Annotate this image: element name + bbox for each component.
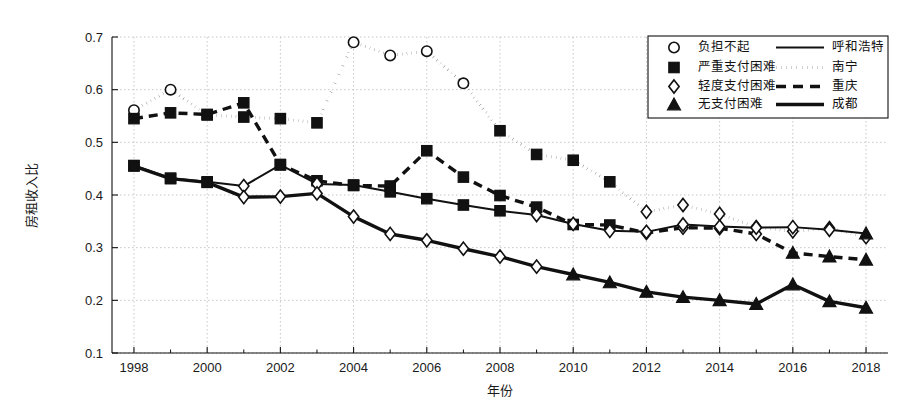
- data-point-marker-square: [495, 206, 505, 216]
- data-point-marker-diamond: [239, 191, 249, 204]
- legend-marker-label-1: 严重支付困难: [698, 59, 776, 74]
- data-point-marker-circle: [422, 46, 432, 56]
- data-point-marker-diamond: [312, 187, 322, 200]
- data-point-marker-square: [605, 177, 615, 187]
- x-tick-label: 2012: [632, 360, 661, 375]
- legend-marker-label-3: 无支付困难: [698, 97, 763, 111]
- data-point-marker-diamond: [275, 190, 285, 203]
- data-point-marker-square: [129, 113, 139, 123]
- legend-marker-square: [669, 62, 679, 72]
- y-tick-label: 0.3: [85, 240, 103, 255]
- data-point-marker-triangle: [860, 253, 873, 265]
- data-point-marker-diamond: [458, 242, 468, 255]
- x-tick-label: 2006: [412, 360, 441, 375]
- x-tick-label: 2004: [339, 360, 368, 375]
- legend-line-label-1: 南宁: [832, 59, 858, 74]
- data-point-marker-diamond: [348, 210, 358, 223]
- x-tick-label: 2014: [705, 360, 734, 375]
- data-point-marker-diamond: [422, 234, 432, 247]
- y-tick-label: 0.1: [85, 346, 103, 361]
- data-point-marker-square: [165, 108, 175, 118]
- data-point-marker-square: [202, 177, 212, 187]
- data-point-marker-square: [495, 126, 505, 136]
- data-point-marker-square: [275, 113, 285, 123]
- data-point-marker-triangle: [786, 278, 799, 290]
- data-point-marker-diamond: [678, 198, 688, 211]
- x-tick-label: 2008: [486, 360, 515, 375]
- data-point-marker-square: [129, 161, 139, 171]
- x-tick-label: 1998: [120, 360, 149, 375]
- legend-marker-label-0: 负担不起: [698, 40, 750, 54]
- data-point-marker-square: [531, 149, 541, 159]
- data-point-marker-circle: [348, 37, 358, 47]
- y-tick-label: 0.2: [85, 293, 103, 308]
- x-tick-label: 2016: [778, 360, 807, 375]
- data-point-marker-square: [568, 155, 578, 165]
- data-point-marker-circle: [458, 78, 468, 88]
- x-tick-label: 2010: [559, 360, 588, 375]
- x-axis-title: 年份: [487, 383, 513, 398]
- data-point-marker-square: [275, 160, 285, 170]
- y-tick-label: 0.6: [85, 82, 103, 97]
- data-point-marker-diamond: [495, 250, 505, 263]
- legend-line-label-2: 重庆: [832, 78, 858, 93]
- data-point-marker-square: [458, 200, 468, 210]
- data-point-marker-diamond: [641, 205, 651, 218]
- y-tick-label: 0.7: [85, 30, 103, 45]
- data-point-marker-circle: [385, 50, 395, 60]
- legend-marker-circle: [669, 42, 679, 52]
- data-point-marker-square: [239, 112, 249, 122]
- y-tick-label: 0.5: [85, 135, 103, 150]
- data-point-marker-square: [385, 187, 395, 197]
- data-point-marker-diamond: [641, 225, 651, 238]
- data-point-marker-square: [202, 109, 212, 119]
- data-point-marker-diamond: [531, 260, 541, 273]
- data-point-marker-circle: [165, 84, 175, 94]
- data-point-marker-square: [422, 193, 432, 203]
- data-point-marker-diamond: [385, 227, 395, 240]
- data-point-marker-diamond: [714, 207, 724, 220]
- legend-line-label-3: 成都: [832, 97, 858, 111]
- data-point-marker-square: [239, 98, 249, 108]
- data-point-marker-square: [348, 180, 358, 190]
- chart-figure: 0.10.20.30.40.50.60.71998200020022004200…: [0, 0, 905, 414]
- x-tick-label: 2018: [852, 360, 881, 375]
- rent-income-ratio-line-chart: 0.10.20.30.40.50.60.71998200020022004200…: [0, 0, 905, 414]
- legend-marker-label-2: 轻度支付困难: [698, 78, 776, 93]
- y-tick-label: 0.4: [85, 188, 103, 203]
- data-point-marker-square: [312, 118, 322, 128]
- data-point-marker-square: [495, 190, 505, 200]
- x-tick-label: 2002: [266, 360, 295, 375]
- data-point-marker-square: [422, 146, 432, 156]
- legend-line-label-0: 呼和浩特: [832, 39, 884, 54]
- x-tick-label: 2000: [193, 360, 222, 375]
- data-point-marker-square: [458, 172, 468, 182]
- y-axis-title: 房租收入比: [24, 163, 39, 228]
- data-point-marker-square: [165, 173, 175, 183]
